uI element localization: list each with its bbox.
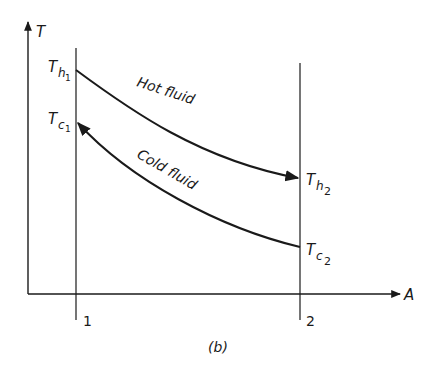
counterflow-temperature-diagram: T A 1 2 Hot fluid Cold fluid T h 1 T c 1… xyxy=(0,0,446,379)
label-th1: T h 1 xyxy=(48,58,71,83)
svg-text:2: 2 xyxy=(324,185,331,198)
svg-text:1: 1 xyxy=(65,73,71,83)
hot-fluid-label: Hot fluid xyxy=(135,74,197,108)
svg-text:c: c xyxy=(316,249,323,263)
label-th2: T h 2 xyxy=(306,171,331,198)
svg-text:2: 2 xyxy=(324,255,331,268)
svg-text:h: h xyxy=(316,179,324,193)
cold-fluid-label: Cold fluid xyxy=(135,146,200,193)
y-axis-label: T xyxy=(36,23,47,41)
label-tc2: T c 2 xyxy=(306,241,331,268)
station-2-label: 2 xyxy=(306,313,315,329)
station-1-label: 1 xyxy=(83,313,92,329)
x-axis-label: A xyxy=(403,286,414,304)
hot-fluid-curve xyxy=(76,70,298,178)
svg-text:c: c xyxy=(58,118,65,132)
svg-text:1: 1 xyxy=(65,124,71,134)
label-tc1: T c 1 xyxy=(48,110,71,134)
figure-caption: (b) xyxy=(208,339,228,355)
